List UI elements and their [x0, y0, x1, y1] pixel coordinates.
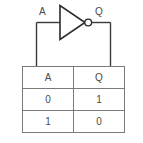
output-label-q: Q: [95, 7, 103, 17]
cell-q-row1: 1: [74, 89, 125, 111]
cell-a-row2: 1: [23, 111, 74, 133]
inverting-bubble-icon: [85, 19, 92, 26]
not-gate-triangle: [60, 6, 85, 40]
header-cell-a: A: [23, 67, 74, 89]
truth-table: A Q 0 1 1 0: [22, 66, 125, 133]
table-header-row: A Q: [23, 67, 125, 89]
input-label-a: A: [39, 7, 46, 17]
table-row: 1 0: [23, 111, 125, 133]
header-cell-q: Q: [74, 67, 125, 89]
cell-q-row2: 0: [74, 111, 125, 133]
table-row: 0 1: [23, 89, 125, 111]
cell-a-row1: 0: [23, 89, 74, 111]
logic-diagram-page: A Q A Q 0 1 1 0: [0, 0, 143, 143]
